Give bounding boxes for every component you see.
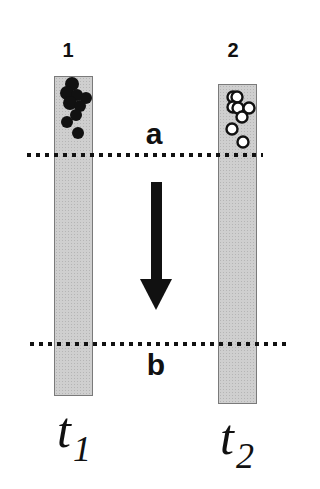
filled-particles [60,77,92,139]
time-subscript: 1 [73,429,91,469]
line-b-label: b [141,350,171,380]
time-subscript: 2 [236,436,254,476]
time-t-symbol: t [220,409,234,465]
time-label-t1: t1 [57,405,91,474]
arrow-down-icon [140,182,172,310]
line-a-label: a [139,119,169,149]
hollow-particles [227,92,255,148]
time-t-symbol: t [57,402,71,458]
time-label-t2: t2 [220,412,254,481]
